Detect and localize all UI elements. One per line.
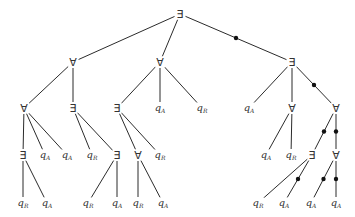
leaf-node-qa: qA: [157, 198, 170, 209]
tree-edge: [23, 114, 24, 149]
tree-edge: [26, 160, 45, 197]
forall-node: ∀: [68, 57, 78, 68]
exists-node: ∃: [288, 57, 297, 68]
tree-edge: [269, 113, 289, 149]
leaf-node-qr: qR: [82, 198, 95, 209]
leaf-subscript: A: [68, 154, 72, 161]
leaf-node-qa: qA: [111, 198, 124, 209]
edge-marker-dot-icon: [296, 177, 300, 181]
tree-edge: [253, 66, 288, 103]
forall-node: ∀: [331, 150, 341, 161]
tree-edge: [121, 112, 156, 150]
leaf-subscript: A: [312, 202, 316, 209]
edge-marker-dot-icon: [321, 177, 325, 181]
leaf-subscript: A: [250, 107, 254, 114]
tree-edge: [291, 114, 292, 149]
edge-marker-dot-icon: [322, 129, 326, 133]
leaf-node-qa: qA: [260, 150, 273, 161]
tree-edge: [164, 66, 198, 103]
tree-edge: [262, 159, 307, 199]
forall-node: ∀: [287, 103, 297, 114]
leaf-node-qa: qA: [61, 150, 74, 161]
leaf-subscript: R: [259, 202, 264, 209]
leaf-subscript: A: [285, 202, 289, 209]
leaf-subscript: A: [267, 154, 271, 161]
leaf-subscript: A: [118, 202, 122, 209]
edge-marker-dot-icon: [334, 177, 338, 181]
tree-edge: [78, 16, 174, 59]
exists-node: ∃: [19, 150, 28, 161]
leaf-node-qa: qA: [278, 198, 291, 209]
tree-edge: [91, 160, 114, 198]
tree-edges: [0, 0, 355, 217]
exists-node: ∃: [176, 9, 185, 20]
game-tree-diagram: ∃∀∀∃∀∃∃qAqRqA∀∀∃qAqAqR∃∀qRqAqR∃∀qRqAqRqA…: [0, 0, 355, 217]
leaf-node-qa: qA: [154, 103, 167, 114]
leaf-subscript: R: [203, 107, 208, 114]
leaf-subscript: A: [161, 107, 165, 114]
leaf-subscript: R: [24, 202, 29, 209]
forall-node: ∀: [133, 150, 143, 161]
exists-node: ∃: [113, 103, 122, 114]
leaf-subscript: A: [164, 202, 168, 209]
leaf-node-qr: qR: [17, 198, 30, 209]
leaf-node-qa: qA: [330, 198, 343, 209]
tree-edge: [28, 66, 68, 104]
edge-marker-dot-icon: [312, 83, 316, 87]
leaf-node-qr: qR: [86, 150, 99, 161]
leaf-node-qr: qR: [252, 198, 265, 209]
leaf-subscript: R: [139, 202, 144, 209]
leaf-subscript: A: [337, 202, 341, 209]
leaf-node-qr: qR: [285, 150, 298, 161]
forall-node: ∀: [19, 103, 29, 114]
leaf-node-qa: qA: [41, 198, 54, 209]
leaf-node-qa: qA: [305, 198, 318, 209]
leaf-node-qr: qR: [196, 103, 209, 114]
edge-marker-dot-icon: [334, 129, 338, 133]
leaf-subscript: R: [161, 154, 166, 161]
leaf-node-qr: qR: [154, 150, 167, 161]
forall-node: ∀: [331, 103, 341, 114]
exists-node: ∃: [69, 103, 78, 114]
exists-node: ∃: [113, 150, 122, 161]
tree-edge: [121, 66, 156, 103]
leaf-subscript: R: [292, 154, 297, 161]
leaf-node-qr: qR: [132, 198, 145, 209]
leaf-node-qa: qA: [39, 150, 52, 161]
leaf-subscript: R: [93, 154, 98, 161]
tree-edge: [28, 112, 63, 150]
tree-edge: [162, 20, 177, 57]
exists-node: ∃: [308, 150, 317, 161]
leaf-subscript: A: [48, 202, 52, 209]
leaf-node-qa: qA: [243, 103, 256, 114]
edge-marker-dot-icon: [234, 36, 238, 40]
leaf-subscript: A: [46, 154, 50, 161]
leaf-subscript: R: [89, 202, 94, 209]
tree-edge: [75, 114, 90, 150]
forall-node: ∀: [155, 57, 165, 68]
tree-edge: [141, 160, 160, 197]
